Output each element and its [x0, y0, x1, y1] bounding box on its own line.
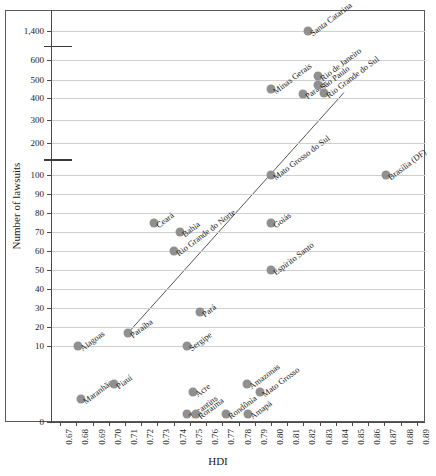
- y-tick: [47, 270, 52, 271]
- gridline: [52, 251, 425, 252]
- y-tick: [47, 346, 52, 347]
- x-tick: [60, 422, 61, 426]
- x-tick-label: 0.69: [97, 429, 107, 445]
- y-tick: [47, 422, 52, 423]
- x-tick-label: 0.68: [80, 429, 90, 445]
- x-tick-label: 0.82: [307, 429, 317, 445]
- x-tick-label: 0.76: [210, 429, 220, 445]
- x-tick-label: 0.74: [178, 429, 188, 445]
- x-tick-label: 0.73: [161, 429, 171, 445]
- x-tick: [287, 422, 288, 426]
- gridline: [52, 270, 425, 271]
- gridline: [52, 175, 425, 176]
- point-label: Paraíba: [128, 316, 154, 339]
- x-tick: [174, 422, 175, 426]
- y-tick: [47, 120, 52, 121]
- gridline: [52, 31, 425, 32]
- x-tick: [109, 422, 110, 426]
- x-tick-label: 0.77: [226, 429, 236, 445]
- x-tick: [222, 422, 223, 426]
- gridline: [52, 143, 425, 144]
- x-tick: [417, 422, 418, 426]
- x-tick: [190, 422, 191, 426]
- point-label: Pará: [200, 302, 218, 319]
- gridline: [52, 308, 425, 309]
- x-tick: [352, 422, 353, 426]
- y-tick-label: 100: [31, 170, 45, 180]
- y-tick-label: 60: [35, 246, 44, 256]
- x-tick-label: 0.89: [421, 429, 431, 445]
- x-tick: [255, 422, 256, 426]
- gridline: [52, 289, 425, 290]
- y-tick-label: 1,400: [24, 26, 44, 36]
- gridline: [52, 194, 425, 195]
- y-tick-label: 600: [31, 55, 45, 65]
- x-tick-label: 0.72: [145, 429, 155, 445]
- y-tick: [47, 80, 52, 81]
- y-tick: [47, 60, 52, 61]
- point-label: Espírito Santo: [271, 240, 316, 277]
- x-tick-label: 0.80: [275, 429, 285, 445]
- y-tick-label: 200: [31, 138, 45, 148]
- y-tick-label: 80: [35, 208, 44, 218]
- y-tick-label: 0: [40, 417, 45, 427]
- y-tick-label: 40: [35, 284, 44, 294]
- x-tick: [320, 422, 321, 426]
- x-tick-label: 0.67: [64, 429, 74, 445]
- axis-break-mark: [44, 159, 72, 161]
- x-tick: [93, 422, 94, 426]
- x-tick-label: 0.88: [405, 429, 415, 445]
- y-tick: [47, 213, 52, 214]
- x-tick-label: 0.71: [129, 429, 139, 445]
- gridline: [52, 213, 425, 214]
- gridline: [52, 232, 425, 233]
- point-label: Santa Catarina: [308, 0, 354, 38]
- y-tick: [47, 327, 52, 328]
- y-tick-label: 90: [35, 189, 44, 199]
- x-tick-label: 0.70: [113, 429, 123, 445]
- gridline: [52, 80, 425, 81]
- axis-break-mark: [44, 46, 72, 48]
- y-tick: [47, 143, 52, 144]
- x-tick: [368, 422, 369, 426]
- x-tick: [239, 422, 240, 426]
- x-tick: [271, 422, 272, 426]
- y-tick: [47, 308, 52, 309]
- point-label: Piauí: [114, 372, 134, 391]
- y-tick: [47, 98, 52, 99]
- x-tick-label: 0.85: [356, 429, 366, 445]
- trendline: [52, 10, 425, 422]
- x-tick: [76, 422, 77, 426]
- point-label: Brasília (DF): [386, 147, 428, 182]
- gridline: [52, 327, 425, 328]
- gridline: [52, 120, 425, 121]
- x-tick-label: 0.75: [194, 429, 204, 445]
- y-tick-label: 70: [35, 227, 44, 237]
- y-axis-title: Number of lawsuits: [10, 106, 22, 306]
- y-tick-label: 50: [35, 265, 44, 275]
- y-tick: [47, 175, 52, 176]
- y-tick: [47, 289, 52, 290]
- x-tick-label: 0.83: [324, 429, 334, 445]
- x-tick: [125, 422, 126, 426]
- plot-area: AlagoasMaranhãoPiauíParaíbaCearáBahiaRio…: [52, 10, 425, 422]
- x-tick: [303, 422, 304, 426]
- y-tick-label: 30: [35, 303, 44, 313]
- x-tick-label: 0.81: [291, 429, 301, 445]
- gridline: [52, 346, 425, 347]
- y-tick-label: 300: [31, 115, 45, 125]
- x-axis-title: HDI: [0, 455, 436, 467]
- x-tick: [401, 422, 402, 426]
- y-tick: [47, 232, 52, 233]
- x-tick-label: 0.84: [340, 429, 350, 445]
- y-tick-label: 20: [35, 322, 44, 332]
- y-tick-label: 10: [35, 341, 44, 351]
- x-tick: [384, 422, 385, 426]
- gridline: [52, 98, 425, 99]
- x-tick-label: 0.78: [243, 429, 253, 445]
- point-label: Alagoas: [78, 328, 106, 353]
- x-tick-label: 0.79: [259, 429, 269, 445]
- y-tick: [47, 251, 52, 252]
- x-tick: [206, 422, 207, 426]
- x-tick-label: 0.86: [372, 429, 382, 445]
